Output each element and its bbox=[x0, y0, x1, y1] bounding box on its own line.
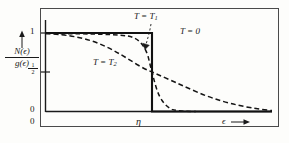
curve-t1 bbox=[46, 34, 197, 112]
y-tick-half-denominator: 2 bbox=[28, 68, 38, 75]
curve-label-t1: T = T1 bbox=[134, 12, 158, 22]
curve-t2 bbox=[46, 34, 273, 111]
curve-label-t2: T = T2 bbox=[93, 58, 117, 68]
y-axis-label-numerator: N(ϵ) bbox=[5, 47, 39, 57]
curve-label-t1-text: T = T bbox=[134, 11, 154, 21]
curve-label-t2-subscript: 2 bbox=[113, 60, 116, 67]
plot-frame bbox=[41, 9, 279, 127]
x-axis-label: ϵ bbox=[222, 117, 226, 126]
x-tick-label-zero: 0 bbox=[30, 117, 35, 126]
curve-label-t2-text: T = T bbox=[93, 57, 113, 67]
figure-container: N(ϵ) g(ϵ) 1 1 2 0 0 η T = T1 T = 0 T = T… bbox=[0, 0, 289, 143]
x-tick-label-eta: η bbox=[136, 117, 141, 127]
y-axis-direction-arrow-head bbox=[19, 31, 25, 38]
y-tick-label-half: 1 2 bbox=[28, 62, 38, 75]
x-axis-direction-arrow-head bbox=[244, 119, 251, 124]
curve-label-t0: T = 0 bbox=[180, 27, 200, 36]
curve-label-t1-subscript: 1 bbox=[154, 14, 157, 21]
y-tick-label-one: 1 bbox=[30, 27, 35, 36]
annotation-arrowhead-t1 bbox=[143, 43, 150, 49]
curve-t0 bbox=[46, 33, 273, 112]
y-tick-label-zero: 0 bbox=[30, 105, 35, 114]
